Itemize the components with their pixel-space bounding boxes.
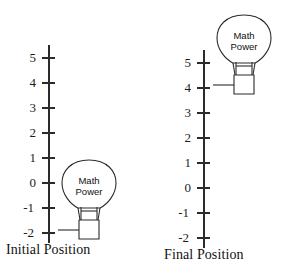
axis-tick-label-5: 5	[14, 51, 36, 64]
bulb-base	[234, 75, 254, 94]
bulb-neck-left	[233, 63, 235, 75]
axis-tick-0	[197, 187, 210, 189]
axis-tick-label-5: 5	[169, 56, 191, 69]
axis-tick-3	[42, 107, 55, 109]
axis-tick-1	[42, 157, 55, 159]
axis-tick-neg2	[197, 237, 210, 239]
bulb-neck-left	[78, 208, 80, 220]
axis-tick-label-1: 1	[14, 151, 36, 164]
panel-final-position: 5 4 3 2 1 0 -1 -2	[142, 0, 284, 267]
bulb-neck-right	[98, 208, 100, 220]
axis-tick-neg2	[42, 232, 55, 234]
axis-tick-label-0: 0	[169, 181, 191, 194]
figure-canvas: 5 4 3 2 1 0 -1 -2	[0, 0, 284, 267]
axis-tick-neg1	[42, 207, 55, 209]
panel-initial-position: 5 4 3 2 1 0 -1 -2	[0, 0, 142, 267]
bulb-neck-right	[253, 63, 255, 75]
light-bulb-initial: Math Power	[58, 158, 120, 236]
axis-line	[48, 45, 50, 243]
axis-line	[203, 50, 205, 248]
axis-tick-5	[42, 57, 55, 59]
panel-caption-final: Final Position	[164, 247, 244, 263]
axis-tick-1	[197, 162, 210, 164]
axis-tick-3	[197, 112, 210, 114]
light-bulb-graphic	[213, 13, 275, 95]
bulb-glass	[62, 160, 116, 208]
axis-tick-2	[42, 132, 55, 134]
axis-tick-label-3: 3	[14, 101, 36, 114]
bulb-glass	[217, 15, 271, 63]
bulb-base	[79, 220, 99, 239]
axis-tick-label-neg1: -1	[12, 201, 34, 214]
axis-tick-label-neg2: -2	[167, 231, 189, 244]
axis-tick-4	[42, 82, 55, 84]
light-bulb-final: Math Power	[213, 13, 275, 91]
axis-tick-label-4: 4	[14, 76, 36, 89]
axis-tick-5	[197, 62, 210, 64]
axis-tick-label-neg1: -1	[167, 206, 189, 219]
axis-tick-label-4: 4	[169, 81, 191, 94]
light-bulb-graphic	[58, 158, 120, 240]
axis-tick-label-0: 0	[14, 176, 36, 189]
axis-tick-4	[197, 87, 210, 89]
axis-tick-label-2: 2	[14, 126, 36, 139]
axis-tick-label-1: 1	[169, 156, 191, 169]
axis-tick-neg1	[197, 212, 210, 214]
axis-tick-label-3: 3	[169, 106, 191, 119]
panel-caption-initial: Initial Position	[6, 242, 90, 258]
axis-tick-label-2: 2	[169, 131, 191, 144]
axis-tick-label-neg2: -2	[12, 226, 34, 239]
axis-tick-2	[197, 137, 210, 139]
axis-tick-0	[42, 182, 55, 184]
